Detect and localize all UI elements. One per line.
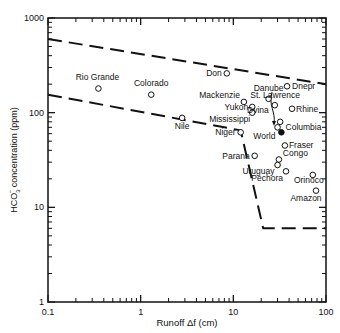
x-tick-label: 10 bbox=[228, 307, 238, 317]
point-label: Rio Grande bbox=[76, 72, 120, 82]
point-label: Mackenzie bbox=[199, 90, 240, 100]
point-label: Amazon bbox=[290, 193, 321, 203]
point-label: Nile bbox=[175, 121, 190, 131]
point-label: Mississippi bbox=[209, 114, 250, 124]
y-tick-label: 10 bbox=[34, 202, 44, 212]
data-point bbox=[276, 157, 282, 163]
lower-bound-line bbox=[48, 95, 326, 229]
data-point bbox=[279, 130, 285, 136]
y-axis-label: HCO3− concentration (ppm) bbox=[7, 107, 21, 212]
y-tick-label: 1000 bbox=[24, 13, 44, 23]
plot-frame bbox=[48, 18, 326, 302]
data-point bbox=[96, 86, 102, 92]
data-point bbox=[275, 125, 281, 131]
point-label: Congo bbox=[283, 148, 308, 158]
point-label: Colorado bbox=[134, 78, 169, 88]
data-point bbox=[275, 162, 281, 168]
data-point bbox=[148, 92, 154, 98]
point-label: World bbox=[253, 131, 275, 141]
data-point bbox=[284, 83, 290, 89]
data-point bbox=[277, 119, 283, 125]
data-point bbox=[283, 169, 289, 175]
x-axis-label: Runoff Δf (cm) bbox=[156, 317, 217, 328]
point-label: Rhine bbox=[296, 104, 318, 114]
data-point bbox=[289, 106, 295, 112]
point-label: Parana bbox=[222, 151, 250, 161]
data-point bbox=[252, 153, 258, 159]
point-label: Orinoco bbox=[294, 175, 324, 185]
chart: Rio GrandeColoradoNileDonDneprDanubeMack… bbox=[0, 0, 340, 333]
point-label: Pechora bbox=[251, 173, 283, 183]
y-tick-label: 100 bbox=[29, 108, 44, 118]
x-tick-label: 1 bbox=[138, 307, 143, 317]
x-tick-label: 0.1 bbox=[42, 307, 55, 317]
y-tick-label: 1 bbox=[39, 297, 44, 307]
point-label: Don bbox=[206, 68, 222, 78]
point-label: St. Lawrence bbox=[250, 90, 300, 100]
data-points: Rio GrandeColoradoNileDonDneprDanubeMack… bbox=[76, 68, 324, 202]
data-point bbox=[272, 102, 278, 108]
point-label: Niger bbox=[215, 127, 235, 137]
point-label: Yukon bbox=[225, 102, 249, 112]
tick-labels: 0.11101001101001000 bbox=[24, 13, 334, 317]
point-label: Dvina bbox=[247, 105, 269, 115]
data-point bbox=[224, 71, 230, 77]
data-point bbox=[238, 130, 244, 136]
data-point bbox=[179, 115, 185, 121]
x-tick-label: 100 bbox=[318, 307, 333, 317]
plot-area bbox=[48, 18, 326, 302]
point-label: Columbia bbox=[286, 122, 322, 132]
